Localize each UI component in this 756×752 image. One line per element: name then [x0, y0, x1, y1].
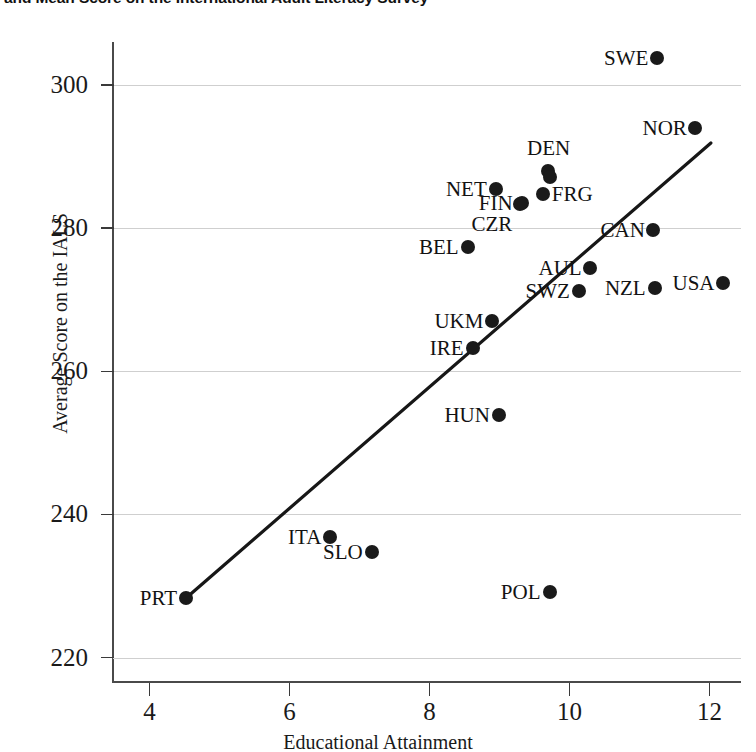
data-point-label-nor: NOR [642, 118, 686, 139]
data-point-label-den: DEN [527, 138, 570, 159]
data-point-label-net: NET [446, 179, 487, 200]
data-point-aul [583, 261, 597, 275]
data-point-slo [365, 545, 379, 559]
data-point-nor [688, 121, 702, 135]
trend-line [0, 0, 756, 752]
data-point-label-prt: PRT [140, 588, 177, 609]
data-point-hun [492, 408, 506, 422]
data-point-label-pol: POL [501, 582, 541, 603]
x-axis-title: Educational Attainment [0, 731, 756, 752]
data-point-bel [461, 240, 475, 254]
data-point-net [489, 182, 503, 196]
data-point-label-slo: SLO [323, 542, 363, 563]
data-point-label-czr: CZR [471, 214, 512, 235]
data-point-label-nzl: NZL [605, 278, 646, 299]
data-point-pol [543, 585, 557, 599]
data-point-label-swe: SWE [604, 48, 648, 69]
data-point-prt [179, 591, 193, 605]
data-point-label-bel: BEL [419, 237, 459, 258]
data-point-czr [513, 197, 527, 211]
data-point-can [646, 223, 660, 237]
data-point-label-aul: AUL [538, 258, 581, 279]
data-point-label-ukm: UKM [434, 311, 483, 332]
data-point-ire [466, 341, 480, 355]
data-point-label-can: CAN [600, 220, 644, 241]
data-point-nzl [648, 281, 662, 295]
data-point-label-hun: HUN [444, 405, 490, 426]
data-point-ukm [485, 314, 499, 328]
data-point-label-ita: ITA [288, 527, 321, 548]
data-point-label-ire: IRE [430, 338, 464, 359]
data-point-swz [572, 284, 586, 298]
data-point-label-frg: FRG [552, 184, 593, 205]
data-point-swe [650, 51, 664, 65]
scatter-chart: and Mean Score on the International Adul… [0, 0, 756, 752]
data-point-frg [536, 187, 550, 201]
data-point-label-usa: USA [672, 273, 714, 294]
data-point-label-swz: SWZ [526, 281, 570, 302]
y-axis-title: Average Score on the IALS [49, 114, 72, 534]
data-point-usa [716, 276, 730, 290]
